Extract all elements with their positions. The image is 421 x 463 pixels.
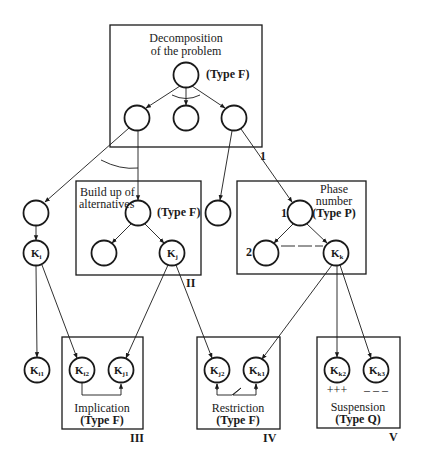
decomposition-title-line2: of the problem (151, 44, 222, 58)
alternatives-roman: II (186, 276, 196, 290)
implication-type: (Type F) (80, 413, 123, 427)
decomposition-child-middle-node (174, 106, 199, 131)
decomposition-title-line1: Decomposition (149, 31, 222, 45)
alternatives-type: (Type F) (157, 205, 200, 219)
restriction-roman: IV (263, 431, 277, 445)
suspension-minus-signs: – – – (363, 383, 389, 397)
phase-node-1 (288, 201, 313, 226)
standalone-node (206, 201, 231, 226)
phase-type: (Type P) (312, 206, 355, 220)
decomposition-type: (Type F) (206, 67, 249, 81)
phase-node-2 (254, 241, 279, 266)
alternatives-child-node (92, 241, 117, 266)
phase-node2-label: 2 (246, 245, 252, 259)
decomposition-child-right-node (222, 106, 247, 131)
alternatives-title-line2: alternatives (79, 197, 135, 211)
implication-roman: III (130, 431, 144, 445)
left-branch-node (24, 201, 49, 226)
restriction-type: (Type F) (216, 413, 259, 427)
suspension-roman: V (389, 430, 398, 444)
decomposition-child-left-node (125, 106, 150, 131)
decomposition-root-node (174, 63, 199, 88)
suspension-plus-signs: +++ (327, 383, 348, 397)
suspension-type: (Type Q) (335, 412, 380, 426)
problem-decomposition-diagram: Ki Kj Kk Ki1 Ki2 Kj1 Kj2 Kk1 Kk2 Kk3 Dec… (0, 0, 421, 463)
decomposition-edge-label: 1 (260, 149, 266, 163)
phase-node1-label: 1 (281, 206, 287, 220)
edges (36, 86, 371, 395)
